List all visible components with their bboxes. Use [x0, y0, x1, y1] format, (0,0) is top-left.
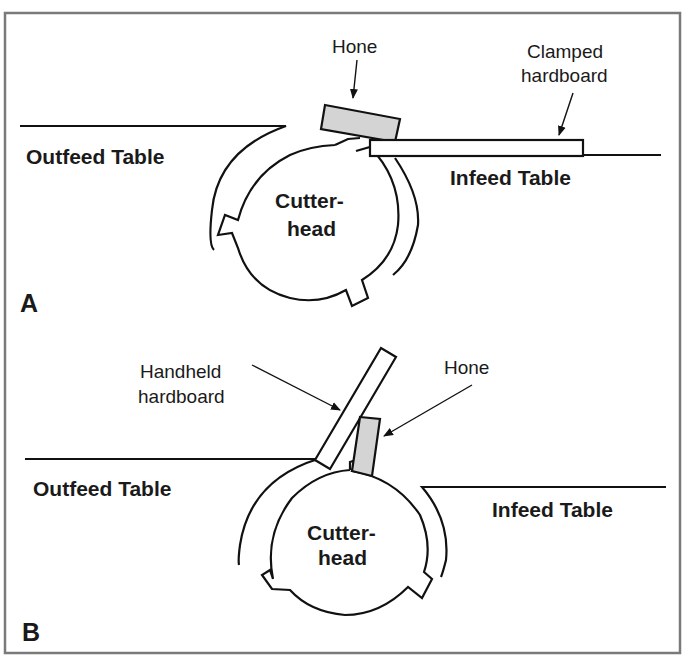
cutterhead-label-b-line1: Cutter-	[307, 521, 376, 544]
infeed-label-b: Infeed Table	[492, 498, 613, 521]
handheld-arrow-b	[252, 365, 340, 410]
clamped-hardboard-a	[370, 140, 583, 156]
outfeed-label-a: Outfeed Table	[26, 145, 164, 168]
clamped-label-a-line2: hardboard	[521, 65, 608, 86]
hone-arrow-b	[384, 385, 472, 436]
cutterhead-label-a-line1: Cutter-	[275, 189, 344, 212]
outfeed-label-b: Outfeed Table	[33, 477, 171, 500]
panel-letter-b: B	[22, 618, 40, 646]
panel-b: Handheld hardboard Hone Outfeed Table In…	[22, 348, 666, 646]
hone-label-a: Hone	[332, 36, 377, 57]
infeed-guard-arc-a	[393, 158, 418, 275]
clamped-label-a-line1: Clamped	[527, 41, 603, 62]
infeed-label-a: Infeed Table	[450, 166, 571, 189]
jointer-honing-diagram: Hone Clamped hardboard Outfeed Table Inf…	[0, 0, 684, 658]
panel-a: Hone Clamped hardboard Outfeed Table Inf…	[20, 36, 661, 317]
hone-a	[321, 105, 400, 142]
hone-label-b: Hone	[444, 357, 489, 378]
handheld-label-b-line2: hardboard	[138, 386, 225, 407]
cutterhead-label-b-line2: head	[318, 546, 367, 569]
clamped-arrow-a	[559, 93, 573, 135]
hone-arrow-a	[353, 60, 357, 98]
handheld-label-b-line1: Handheld	[140, 361, 221, 382]
cutterhead-label-a-line2: head	[287, 217, 336, 240]
outfeed-table-b	[25, 459, 318, 565]
panel-letter-a: A	[20, 289, 38, 317]
